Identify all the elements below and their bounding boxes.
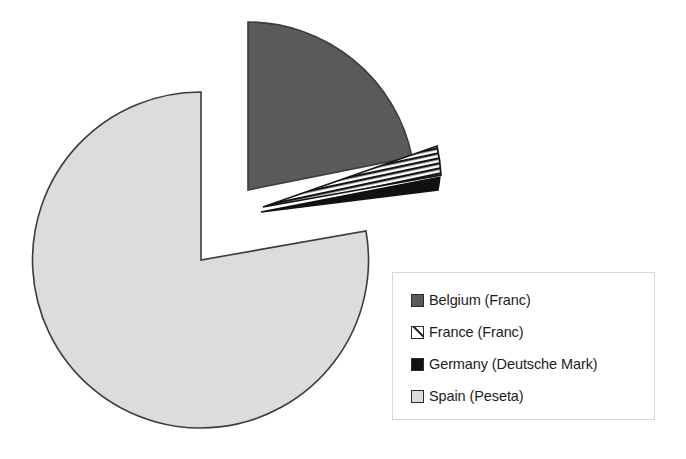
legend-swatch-germany-icon bbox=[411, 358, 424, 371]
legend-swatch-spain-icon bbox=[411, 390, 424, 403]
legend-label-belgium: Belgium (Franc) bbox=[429, 293, 531, 308]
chart-legend: Belgium (Franc) France (Franc) Germany (… bbox=[392, 272, 655, 420]
legend-swatch-france-icon bbox=[411, 326, 424, 339]
legend-label-france: France (Franc) bbox=[429, 325, 523, 340]
legend-item-france[interactable]: France (Franc) bbox=[393, 316, 654, 348]
legend-item-germany[interactable]: Germany (Deutsche Mark) bbox=[393, 348, 654, 380]
legend-label-spain: Spain (Peseta) bbox=[429, 389, 524, 404]
pie-chart-figure: Belgium (Franc) France (Franc) Germany (… bbox=[0, 0, 686, 459]
legend-item-belgium[interactable]: Belgium (Franc) bbox=[393, 284, 654, 316]
legend-item-spain[interactable]: Spain (Peseta) bbox=[393, 380, 654, 412]
legend-swatch-belgium-icon bbox=[411, 294, 424, 307]
legend-label-germany: Germany (Deutsche Mark) bbox=[429, 357, 598, 372]
